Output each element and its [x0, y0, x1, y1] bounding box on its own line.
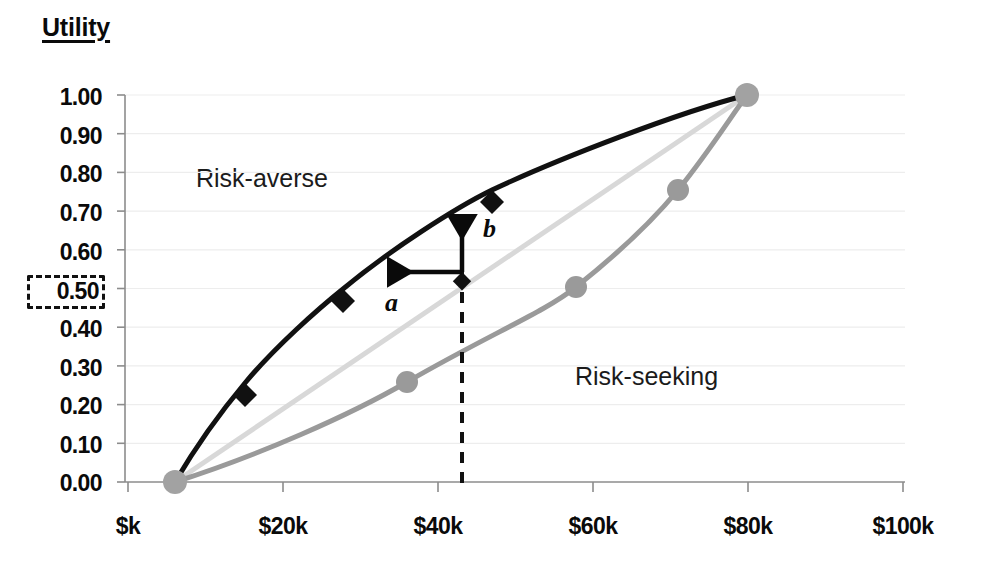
annotation-anchor-point: [453, 272, 471, 290]
plot-canvas: [0, 0, 984, 579]
data-point-origin: [163, 470, 187, 494]
data-point-endpoint-1-00: [735, 83, 759, 107]
data-point-risk-seeking-0-75: [667, 179, 689, 201]
x-axis: [125, 482, 905, 492]
data-point-risk-seeking-0-25: [396, 371, 418, 393]
data-point-risk-averse-0-25: [233, 383, 257, 407]
y-axis: [117, 95, 125, 482]
data-point-risk-seeking-0-50: [565, 276, 587, 298]
chart-root: Utility 1.00 0.90 0.80 0.70 0.60 0.50 0.…: [0, 0, 984, 579]
